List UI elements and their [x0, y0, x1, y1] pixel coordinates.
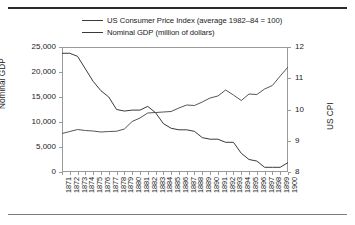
- x-tick-mark: [140, 172, 141, 175]
- x-tick-mark: [78, 172, 79, 175]
- y-right-tick-label: 9: [295, 137, 299, 145]
- legend-item-gdp: Nominal GDP (million of dollars): [82, 27, 282, 37]
- x-tick-mark: [163, 172, 164, 175]
- y-right-tick-label: 12: [295, 43, 304, 51]
- y-left-tick-label: 25,000: [32, 43, 56, 51]
- legend-item-cpi: US Consumer Price Index (average 1982–84…: [82, 15, 282, 25]
- y-right-tick-label: 8: [295, 168, 299, 176]
- x-tick-mark: [148, 172, 149, 175]
- x-tick-mark: [156, 172, 157, 175]
- y-left-tick-label: 20,000: [32, 68, 56, 76]
- x-tick-mark: [226, 172, 227, 175]
- x-tick-mark: [280, 172, 281, 175]
- x-tick-mark: [70, 172, 71, 175]
- y-right-tick-label: 11: [295, 74, 303, 82]
- x-tick-label: 1900: [291, 177, 298, 193]
- x-tick-mark: [101, 172, 102, 175]
- x-tick-mark: [218, 172, 219, 175]
- y-axis-right-title: US CPI: [325, 102, 335, 130]
- legend-swatch-cpi: [82, 20, 103, 21]
- x-tick-mark: [241, 172, 242, 175]
- x-tick-mark: [132, 172, 133, 175]
- y-right-tick-mark: [288, 47, 291, 48]
- y-left-tick-mark: [59, 147, 62, 148]
- plot-lines: [62, 47, 288, 172]
- y-right-tick-label: 10: [295, 106, 304, 114]
- chart-figure: US Consumer Price Index (average 1982–84…: [0, 0, 355, 225]
- y-left-tick-mark: [59, 97, 62, 98]
- y-left-tick-mark: [59, 122, 62, 123]
- x-tick-mark: [124, 172, 125, 175]
- x-tick-mark: [93, 172, 94, 175]
- x-tick-mark: [265, 172, 266, 175]
- x-tick-mark: [179, 172, 180, 175]
- y-left-tick-label: 10,000: [32, 118, 56, 126]
- x-tick-mark: [288, 172, 289, 175]
- y-left-tick-mark: [59, 72, 62, 73]
- x-tick-mark: [202, 172, 203, 175]
- x-tick-mark: [272, 172, 273, 175]
- x-tick-mark: [109, 172, 110, 175]
- top-rule: [8, 7, 347, 9]
- x-tick-mark: [117, 172, 118, 175]
- x-tick-mark: [171, 172, 172, 175]
- legend-label-cpi: US Consumer Price Index (average 1982–84…: [107, 16, 282, 25]
- x-tick-mark: [233, 172, 234, 175]
- legend-label-gdp: Nominal GDP (million of dollars): [107, 28, 215, 37]
- x-tick-mark: [194, 172, 195, 175]
- chart-legend: US Consumer Price Index (average 1982–84…: [82, 15, 282, 37]
- x-tick-mark: [257, 172, 258, 175]
- y-left-tick-label: 15,000: [32, 93, 56, 101]
- x-tick-mark: [187, 172, 188, 175]
- bottom-rule: [8, 214, 347, 215]
- x-tick-mark: [85, 172, 86, 175]
- series-line-nominal-gdp: [62, 67, 288, 134]
- y-axis-left-title: Nominal GDP: [0, 58, 7, 109]
- plot-area: [62, 47, 288, 172]
- y-left-tick-label: 5,000: [36, 143, 56, 151]
- x-tick-mark: [249, 172, 250, 175]
- y-right-tick-mark: [288, 141, 291, 142]
- y-right-tick-mark: [288, 78, 291, 79]
- x-tick-mark: [62, 172, 63, 175]
- legend-swatch-gdp: [82, 32, 103, 33]
- x-tick-label: 1882: [151, 177, 158, 193]
- y-left-tick-label: 0: [52, 168, 56, 176]
- y-right-tick-mark: [288, 110, 291, 111]
- x-tick-mark: [210, 172, 211, 175]
- y-left-tick-mark: [59, 47, 62, 48]
